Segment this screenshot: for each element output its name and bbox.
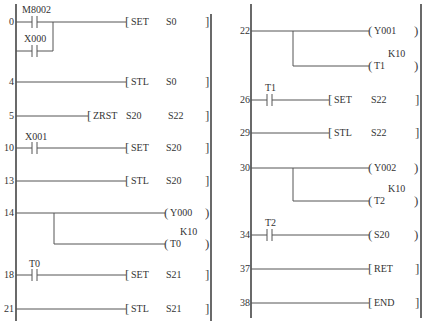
step-number: 26 <box>236 95 250 105</box>
instruction-bracket-open: [ <box>125 174 129 187</box>
contact-label: T2 <box>265 218 276 228</box>
step-number: 30 <box>236 163 250 173</box>
instruction-bracket-open: [ <box>328 126 332 139</box>
coil-paren-open: ( <box>368 161 372 174</box>
coil-label: Y002 <box>374 163 396 173</box>
instruction-bracket-open: [ <box>328 93 332 106</box>
instruction-stl: STL <box>131 304 149 314</box>
instruction-bracket-close: ] <box>415 126 419 139</box>
step-number: 14 <box>0 208 14 218</box>
instruction-bracket-close: ] <box>205 174 209 187</box>
instruction-bracket-open: [ <box>125 141 129 154</box>
step-number: 0 <box>0 17 14 27</box>
instruction-stl: STL <box>334 128 352 138</box>
instruction-bracket-open: [ <box>368 296 372 309</box>
instruction-zrst: ZRST <box>93 111 117 121</box>
contact-label: T1 <box>265 83 276 93</box>
step-number: 29 <box>236 128 250 138</box>
operand: S22 <box>168 111 184 121</box>
operand: S21 <box>166 304 182 314</box>
timer-constant: K10 <box>388 184 405 194</box>
contact-label: M8002 <box>22 5 51 15</box>
coil-paren-close: ) <box>414 59 418 72</box>
contact-label: X000 <box>24 34 46 44</box>
operand: S20 <box>166 143 182 153</box>
operand: S21 <box>166 270 182 280</box>
coil-paren-close: ) <box>414 194 418 207</box>
timer-constant: K10 <box>180 227 197 237</box>
coil-paren-open: ( <box>164 206 168 219</box>
instruction-bracket-open: [ <box>368 262 372 275</box>
instruction-stl: STL <box>131 176 149 186</box>
step-number: 13 <box>0 176 14 186</box>
instruction-bracket-open: [ <box>87 109 91 122</box>
coil-paren-close: ) <box>205 206 209 219</box>
instruction-bracket-open: [ <box>125 75 129 88</box>
coil-paren-open: ( <box>368 228 372 241</box>
contact-label: T0 <box>29 259 40 269</box>
coil-paren-close: ) <box>414 24 418 37</box>
instruction-bracket-open: [ <box>125 268 129 281</box>
instruction-bracket-close: ] <box>415 262 419 275</box>
coil-label: T0 <box>170 239 181 249</box>
instruction-ret: RET <box>374 264 393 274</box>
operand: S22 <box>371 128 387 138</box>
coil-paren-close: ) <box>414 228 418 241</box>
instruction-bracket-open: [ <box>125 15 129 28</box>
operand: S0 <box>166 77 177 87</box>
step-number: 22 <box>236 26 250 36</box>
instruction-bracket-close: ] <box>205 15 209 28</box>
contact-label: X001 <box>25 132 47 142</box>
step-number: 10 <box>0 143 14 153</box>
timer-constant: K10 <box>388 49 405 59</box>
step-number: 18 <box>0 270 14 280</box>
instruction-set: SET <box>131 143 149 153</box>
operand: S20 <box>126 111 142 121</box>
step-number: 4 <box>0 77 14 87</box>
coil-label: T1 <box>374 61 385 71</box>
instruction-bracket-close: ] <box>205 75 209 88</box>
operand: S0 <box>166 17 177 27</box>
instruction-stl: STL <box>131 77 149 87</box>
coil-paren-open: ( <box>368 194 372 207</box>
instruction-bracket-open: [ <box>125 302 129 315</box>
coil-label: T2 <box>374 196 385 206</box>
coil-paren-open: ( <box>368 24 372 37</box>
instruction-bracket-close: ] <box>205 141 209 154</box>
instruction-bracket-close: ] <box>415 93 419 106</box>
coil-paren-close: ) <box>414 161 418 174</box>
step-number: 5 <box>0 111 14 121</box>
ladder-diagram-lines <box>0 0 428 329</box>
instruction-end: END <box>374 298 395 308</box>
step-number: 37 <box>236 264 250 274</box>
coil-paren-open: ( <box>164 237 168 250</box>
instruction-bracket-close: ] <box>205 109 209 122</box>
coil-label: Y000 <box>170 208 192 218</box>
coil-paren-open: ( <box>368 59 372 72</box>
coil-label: Y001 <box>374 26 396 36</box>
coil-label: S20 <box>374 230 390 240</box>
instruction-bracket-close: ] <box>205 302 209 315</box>
step-number: 38 <box>236 298 250 308</box>
operand: S20 <box>166 176 182 186</box>
instruction-set: SET <box>131 17 149 27</box>
operand: S22 <box>371 95 387 105</box>
coil-paren-close: ) <box>205 237 209 250</box>
step-number: 21 <box>0 304 14 314</box>
instruction-bracket-close: ] <box>205 268 209 281</box>
step-number: 34 <box>236 230 250 240</box>
instruction-set: SET <box>131 270 149 280</box>
instruction-bracket-close: ] <box>415 296 419 309</box>
instruction-set: SET <box>334 95 352 105</box>
